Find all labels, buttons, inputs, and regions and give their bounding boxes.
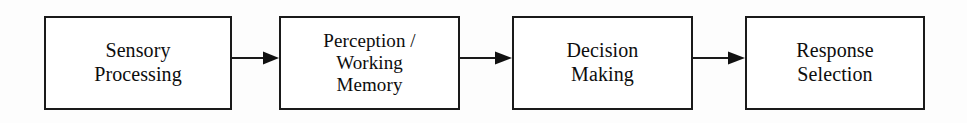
flow-node-label-line: Making [571, 63, 634, 87]
flow-node-label-line: Decision [567, 39, 639, 63]
arrow-right-icon [232, 51, 280, 65]
flow-node-decision-making[interactable]: Decision Making [512, 16, 693, 110]
flow-node-perception-working-memory[interactable]: Perception / Working Memory [279, 16, 460, 110]
flow-node-label-line: Processing [94, 63, 182, 87]
flow-node-label-line: Perception / [323, 30, 415, 52]
flow-node-response-selection[interactable]: Response Selection [745, 16, 925, 110]
flow-node-sensory-processing[interactable]: Sensory Processing [44, 16, 232, 110]
arrow-right-icon [693, 51, 746, 65]
flow-node-label-line: Memory [336, 74, 402, 96]
flow-node-label-line: Selection [797, 63, 872, 87]
flow-node-label-line: Response [796, 39, 873, 63]
flow-node-label-line: Sensory [105, 39, 170, 63]
flow-node-label-line: Working [336, 52, 403, 74]
arrow-right-icon [460, 51, 513, 65]
flowchart-diagram: Sensory Processing Perception / Working … [0, 0, 967, 123]
